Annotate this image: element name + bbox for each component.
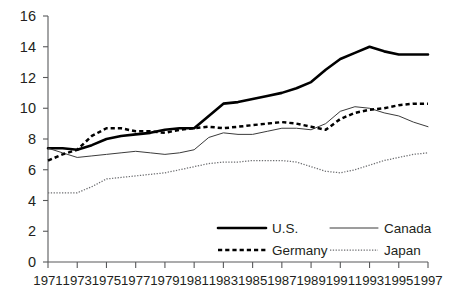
legend-label-germany: Germany xyxy=(272,243,328,258)
x-tick-label: 1989 xyxy=(296,273,325,288)
y-tick-label: 4 xyxy=(28,193,36,209)
y-tick-label: 14 xyxy=(20,39,36,55)
y-tick-label: 10 xyxy=(20,100,36,116)
chart-canvas: 0246810121416 19711973197519771979198119… xyxy=(0,0,450,294)
y-tick-label: 16 xyxy=(20,8,36,24)
y-tick-label: 6 xyxy=(28,162,36,178)
x-tick-label: 1975 xyxy=(92,273,121,288)
x-tick-label: 1985 xyxy=(238,273,267,288)
y-tick-label: 2 xyxy=(28,223,36,239)
series-lines xyxy=(48,47,428,193)
y-axis-ticks: 0246810121416 xyxy=(20,8,48,270)
legend-label-us: U.S. xyxy=(272,221,298,236)
series-line-japan xyxy=(48,153,428,193)
series-line-canada xyxy=(48,107,428,158)
x-tick-label: 1987 xyxy=(267,273,296,288)
x-tick-label: 1997 xyxy=(413,273,442,288)
chart-legend: U.S.CanadaGermanyJapan xyxy=(218,221,432,258)
x-tick-label: 1973 xyxy=(63,273,92,288)
x-tick-label: 1977 xyxy=(121,273,150,288)
y-tick-label: 12 xyxy=(20,70,36,86)
x-tick-label: 1995 xyxy=(384,273,413,288)
x-tick-label: 1981 xyxy=(179,273,208,288)
legend-label-canada: Canada xyxy=(384,221,432,236)
x-tick-label: 1971 xyxy=(33,273,62,288)
x-tick-label: 1979 xyxy=(150,273,179,288)
y-tick-label: 8 xyxy=(28,131,36,147)
line-chart: 0246810121416 19711973197519771979198119… xyxy=(0,0,450,294)
x-axis-ticks: 1971197319751977197919811983198519871989… xyxy=(33,262,442,288)
y-tick-label: 0 xyxy=(28,254,36,270)
series-line-germany xyxy=(48,104,428,161)
legend-label-japan: Japan xyxy=(384,243,421,258)
x-tick-label: 1991 xyxy=(326,273,355,288)
x-tick-label: 1993 xyxy=(355,273,384,288)
x-tick-label: 1983 xyxy=(209,273,238,288)
